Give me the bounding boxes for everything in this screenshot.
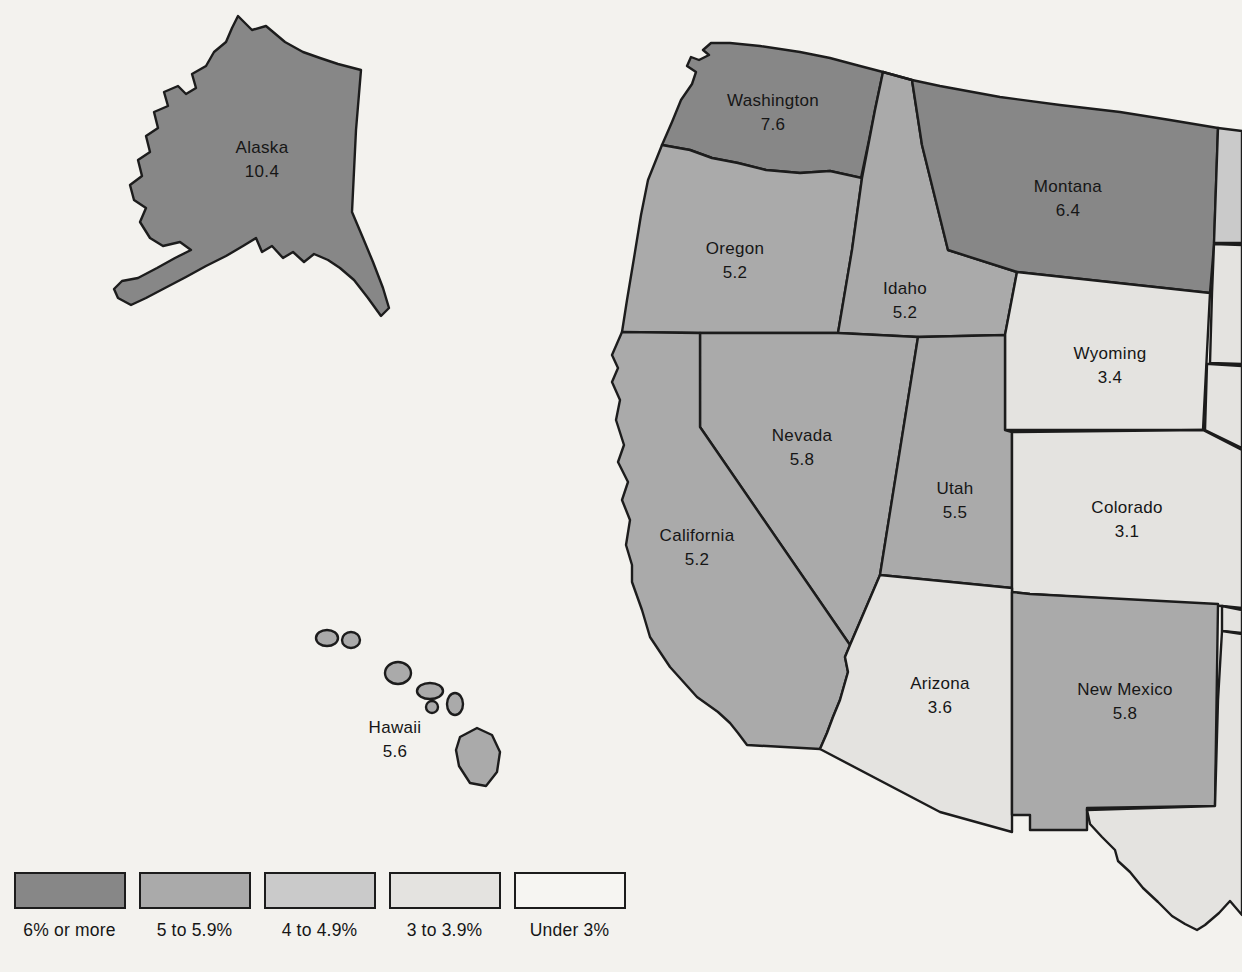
state-name: Wyoming bbox=[1074, 342, 1147, 366]
hawaii-island-3 bbox=[385, 662, 411, 684]
state-value: 5.2 bbox=[883, 301, 927, 325]
legend-item-3: 4 to 4.9% bbox=[263, 872, 376, 941]
legend-swatch-2 bbox=[139, 872, 251, 909]
state-value: 3.4 bbox=[1074, 366, 1147, 390]
state-shape-south-dakota-edge bbox=[1210, 244, 1242, 364]
state-name: New Mexico bbox=[1077, 678, 1173, 702]
legend-label-5: Under 3% bbox=[530, 920, 609, 941]
state-label-hawaii: Hawaii 5.6 bbox=[369, 716, 422, 764]
state-value: 5.2 bbox=[660, 548, 735, 572]
state-value: 3.6 bbox=[910, 696, 970, 720]
state-value: 5.8 bbox=[1077, 702, 1173, 726]
state-label-california: California 5.2 bbox=[660, 524, 735, 572]
hawaii-big-island bbox=[456, 728, 500, 786]
state-name: Nevada bbox=[772, 424, 832, 448]
state-shape-north-dakota-edge bbox=[1214, 128, 1242, 243]
state-name: Utah bbox=[936, 477, 973, 501]
state-value: 6.4 bbox=[1034, 199, 1102, 223]
state-value: 3.1 bbox=[1091, 520, 1162, 544]
state-value: 10.4 bbox=[236, 160, 289, 184]
legend-item-5: Under 3% bbox=[513, 872, 626, 941]
state-value: 5.2 bbox=[706, 261, 765, 285]
state-name: Arizona bbox=[910, 672, 970, 696]
state-value: 5.5 bbox=[936, 501, 973, 525]
state-name: Idaho bbox=[883, 277, 927, 301]
legend-label-2: 5 to 5.9% bbox=[157, 920, 233, 941]
legend-swatch-1 bbox=[14, 872, 126, 909]
state-label-utah: Utah 5.5 bbox=[936, 477, 973, 525]
legend-item-2: 5 to 5.9% bbox=[138, 872, 251, 941]
state-label-colorado: Colorado 3.1 bbox=[1091, 496, 1162, 544]
hawaii-island-4 bbox=[417, 683, 443, 699]
state-label-oregon: Oregon 5.2 bbox=[706, 237, 765, 285]
hawaii-island-5 bbox=[426, 701, 438, 713]
legend-swatch-5 bbox=[514, 872, 626, 909]
legend-item-1: 6% or more bbox=[13, 872, 126, 941]
state-name: Hawaii bbox=[369, 716, 422, 740]
state-value: 5.8 bbox=[772, 448, 832, 472]
state-name: Montana bbox=[1034, 175, 1102, 199]
us-west-map bbox=[0, 0, 1242, 972]
hawaii-island-6 bbox=[447, 693, 463, 715]
legend-label-4: 3 to 3.9% bbox=[407, 920, 483, 941]
legend-swatch-3 bbox=[264, 872, 376, 909]
legend-item-4: 3 to 3.9% bbox=[388, 872, 501, 941]
state-value: 5.6 bbox=[369, 740, 422, 764]
state-name: Washington bbox=[727, 89, 819, 113]
legend-label-1: 6% or more bbox=[23, 920, 115, 941]
state-name: Oregon bbox=[706, 237, 765, 261]
state-name: California bbox=[660, 524, 735, 548]
state-label-wyoming: Wyoming 3.4 bbox=[1074, 342, 1147, 390]
state-name: Alaska bbox=[236, 136, 289, 160]
state-label-washington: Washington 7.6 bbox=[727, 89, 819, 137]
state-label-idaho: Idaho 5.2 bbox=[883, 277, 927, 325]
legend-label-3: 4 to 4.9% bbox=[282, 920, 358, 941]
state-label-arizona: Arizona 3.6 bbox=[910, 672, 970, 720]
state-value: 7.6 bbox=[727, 113, 819, 137]
choropleth-map-page: Alaska 10.4 Washington 7.6 Montana 6.4 O… bbox=[0, 0, 1242, 972]
state-name: Colorado bbox=[1091, 496, 1162, 520]
legend: 6% or more 5 to 5.9% 4 to 4.9% 3 to 3.9%… bbox=[13, 872, 626, 941]
state-shape-oklahoma-panhandle-edge bbox=[1222, 606, 1242, 633]
hawaii-island-1 bbox=[316, 630, 338, 646]
state-label-nevada: Nevada 5.8 bbox=[772, 424, 832, 472]
hawaii-island-2 bbox=[342, 632, 360, 648]
state-label-alaska: Alaska 10.4 bbox=[236, 136, 289, 184]
state-label-montana: Montana 6.4 bbox=[1034, 175, 1102, 223]
legend-swatch-4 bbox=[389, 872, 501, 909]
state-label-new-mexico: New Mexico 5.8 bbox=[1077, 678, 1173, 726]
